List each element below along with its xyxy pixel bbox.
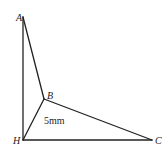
segment-bh	[23, 99, 44, 140]
geometry-diagram: A B H C 5mm	[0, 0, 168, 158]
label-b: B	[47, 90, 53, 101]
measurement-label: 5mm	[44, 115, 65, 126]
label-c: C	[155, 135, 162, 146]
segment-ab	[23, 17, 44, 99]
label-a: A	[15, 12, 23, 23]
label-h: H	[12, 135, 21, 146]
diagram-svg: A B H C 5mm	[0, 0, 168, 158]
